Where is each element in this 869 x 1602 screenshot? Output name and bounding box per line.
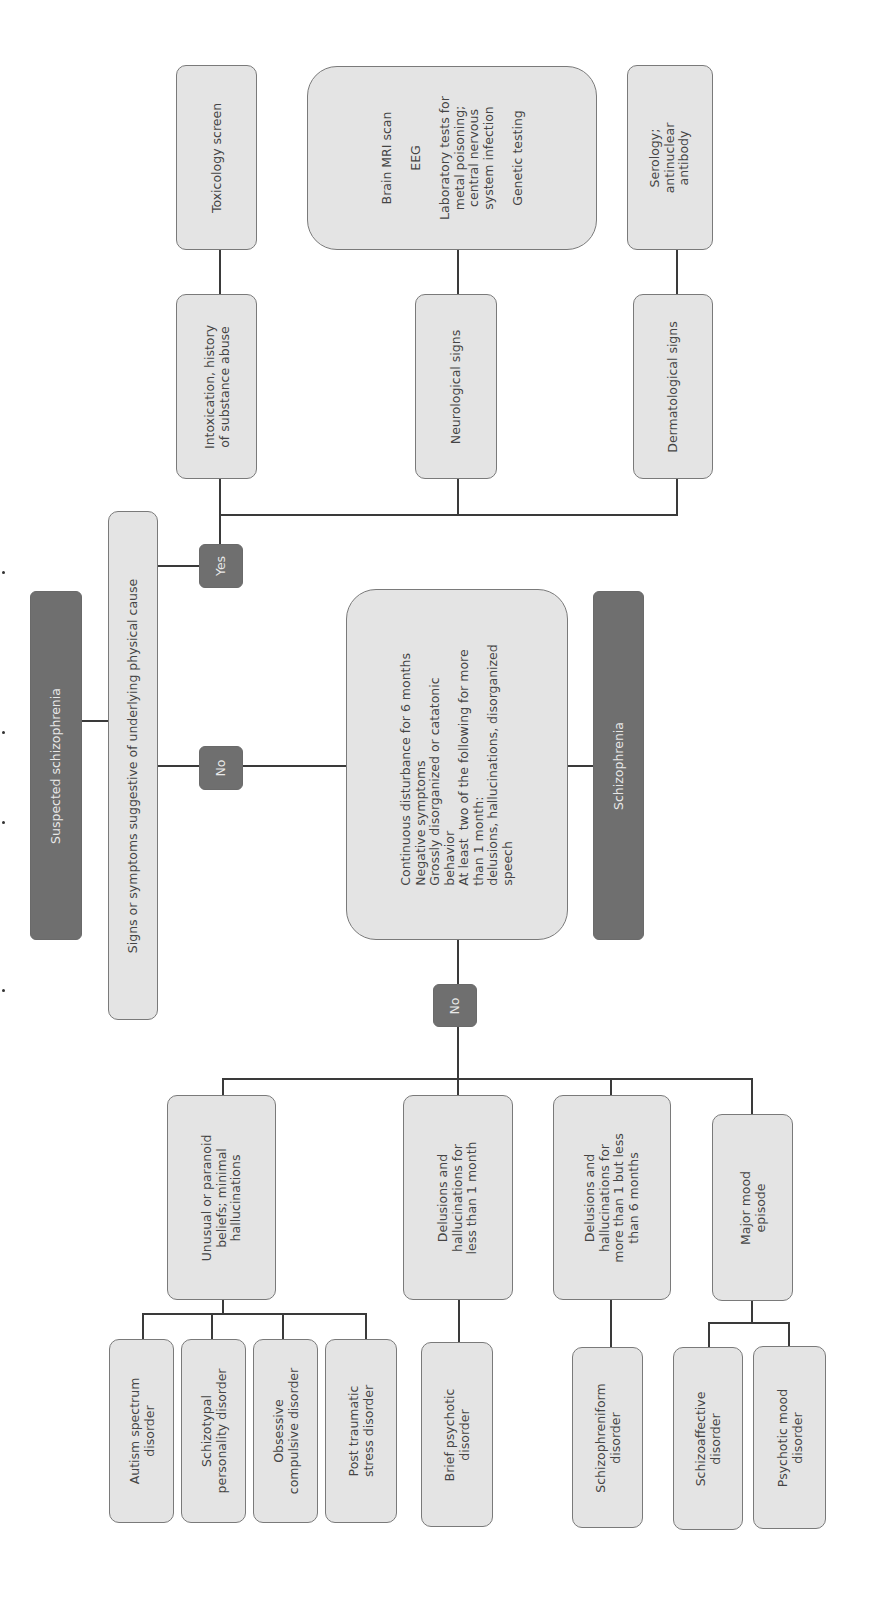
connector [82,720,108,722]
node-label: Delusions and hallucinations for more th… [583,1133,641,1263]
criteria-node: Continuous disturbance for 6 months Nega… [346,589,568,940]
outcome-schizotypal: Schizotypal personality disorder [181,1339,246,1523]
yes-decision: Yes [199,544,243,588]
node-label: Dermatological signs [666,321,681,452]
node-label: Brief psychotic disorder [443,1388,472,1481]
connector [219,479,221,544]
connector [610,1078,612,1095]
scan-dot [2,821,5,824]
connector [457,250,459,294]
scan-dot [2,571,5,574]
connector [142,1313,366,1315]
scan-dot [2,989,5,992]
no-decision: No [199,746,243,790]
branch-delusions-under-1-month: Delusions and hallucinations for less th… [403,1095,513,1300]
connector [610,1300,612,1347]
connector [222,1078,224,1095]
connector [222,1300,224,1314]
suspected-schizophrenia-node: Suspected schizophrenia [30,591,82,940]
branch-delusions-1-to-6-months: Delusions and hallucinations for more th… [553,1095,671,1300]
connector [142,1313,144,1339]
connector [158,565,199,567]
outcome-psychotic-mood: Psychotic mood disorder [753,1346,826,1529]
connector [219,514,678,516]
intoxication-node: Intoxication, history of substance abuse [176,294,257,479]
serology-node: Serology; antinuclear antibody [627,65,713,250]
toxicology-node: Toxicology screen [176,65,257,250]
connector [788,1322,790,1347]
outcome-brief-psychotic: Brief psychotic disorder [421,1342,493,1527]
decision-label: Yes [214,556,229,576]
physical-cause-question-node: Signs or symptoms suggestive of underlyi… [108,511,158,1020]
neuro-tests-node: Brain MRI scan EEG Laboratory tests for … [307,66,597,250]
node-label: Unusual or paranoid beliefs; minimal hal… [200,1134,244,1261]
connector [708,1322,710,1347]
outcome-autism: Autism spectrum disorder [109,1339,174,1523]
node-label: Neurological signs [449,329,464,443]
connector [457,479,459,515]
connector [708,1322,789,1324]
outcome-schizoaffective: Schizoaffective disorder [673,1347,743,1530]
node-label: Psychotic mood disorder [775,1388,804,1486]
neurological-signs-node: Neurological signs [415,294,497,479]
node-label: Toxicology screen [209,102,224,212]
connector [219,250,221,294]
node-label: Signs or symptoms suggestive of underlyi… [126,578,141,952]
dermatological-signs-node: Dermatological signs [633,294,713,479]
connector [222,1078,752,1080]
node-label: Schizoaffective disorder [694,1391,723,1486]
connector [751,1078,753,1114]
connector [365,1313,367,1339]
node-label: Intoxication, history of substance abuse [202,324,231,448]
node-label: Autism spectrum disorder [127,1378,156,1485]
schizophrenia-diagnosis-node: Schizophrenia [593,591,644,940]
node-label: Obsessive compulsive disorder [271,1368,300,1494]
connector [457,940,459,984]
connector [243,765,346,767]
branch-major-mood-episode: Major mood episode [712,1114,793,1301]
outcome-ocd: Obsessive compulsive disorder [253,1339,318,1523]
no-decision-2: No [433,984,477,1027]
node-label: Schizophreniform disorder [593,1383,622,1492]
connector [676,479,678,515]
node-label: Schizophrenia [611,722,626,810]
node-label: Major mood episode [738,1170,767,1244]
decision-label: No [448,997,463,1014]
connector [282,1313,284,1339]
decision-label: No [214,760,229,777]
node-label: Post traumatic stress disorder [347,1385,376,1477]
connector [457,1027,459,1095]
connector [158,765,199,767]
connector [211,1313,213,1339]
outcome-ptsd: Post traumatic stress disorder [325,1339,397,1523]
scan-dot [2,731,5,734]
node-label: Serology; antinuclear antibody [648,122,692,193]
connector [751,1301,753,1323]
connector [676,250,678,294]
connector [568,765,593,767]
outcome-schizophreniform: Schizophreniform disorder [572,1347,643,1528]
node-label: Brain MRI scan EEG Laboratory tests for … [380,96,525,220]
node-label: Schizotypal personality disorder [199,1369,228,1494]
node-label: Suspected schizophrenia [49,688,64,844]
node-label: Delusions and hallucinations for less th… [436,1141,480,1254]
branch-unusual-beliefs: Unusual or paranoid beliefs; minimal hal… [167,1095,276,1300]
connector [458,1300,460,1342]
node-label: Continuous disturbance for 6 months Nega… [399,644,515,885]
